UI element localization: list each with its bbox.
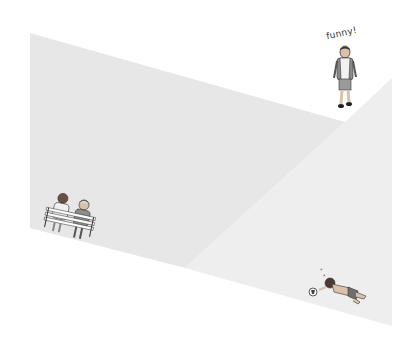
scene-canvas: * * <box>0 0 411 347</box>
walking-person <box>334 46 356 108</box>
